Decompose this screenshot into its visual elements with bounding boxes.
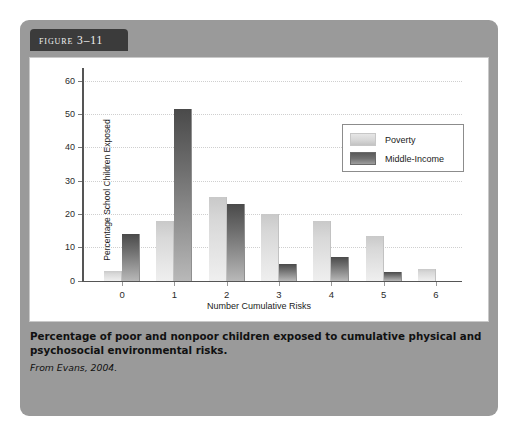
bar-middle-income-5	[384, 272, 402, 280]
legend-label-poverty: Poverty	[385, 135, 416, 145]
legend-item-middle-income: Middle-Income	[350, 150, 456, 167]
plot-frame: 0102030405060 0123456	[82, 74, 462, 282]
figure-caption: Percentage of poor and nonpoor children …	[30, 330, 486, 358]
bar-middle-income-0	[122, 234, 140, 281]
legend-label-middle-income: Middle-Income	[385, 154, 444, 164]
x-tick-mark	[436, 282, 437, 286]
y-tick-label: 10	[65, 242, 75, 252]
figure-card: Figure 3–11 Percentage School Children E…	[20, 20, 498, 416]
bar-poverty-4	[313, 221, 331, 281]
plot-area: 0102030405060 0123456	[82, 74, 462, 282]
figure-badge: Figure 3–11	[30, 29, 128, 51]
chart-panel: Percentage School Children Exposed 01020…	[29, 57, 489, 322]
y-tick-label: 40	[65, 142, 75, 152]
bar-middle-income-1	[174, 109, 192, 281]
bar-poverty-3	[261, 214, 279, 281]
x-tick-mark	[122, 282, 123, 286]
y-tick-label: 50	[65, 109, 75, 119]
x-tick-label: 3	[276, 289, 281, 300]
legend-item-poverty: Poverty	[350, 131, 456, 148]
y-tick-label: 60	[65, 76, 75, 86]
x-tick-mark	[384, 282, 385, 286]
x-tick-label: 1	[172, 289, 177, 300]
x-tick-label: 5	[381, 289, 386, 300]
x-axis-line	[82, 281, 462, 283]
x-tick-label: 6	[433, 289, 438, 300]
x-axis-label: Number Cumulative Risks	[30, 301, 488, 311]
x-tick-mark	[331, 282, 332, 286]
x-tick-label: 0	[119, 289, 124, 300]
y-tick-label: 0	[70, 276, 75, 286]
bar-middle-income-3	[279, 264, 297, 281]
y-tick-label: 30	[65, 176, 75, 186]
bar-poverty-6	[418, 269, 436, 281]
bar-poverty-5	[366, 236, 384, 281]
bar-middle-income-4	[331, 257, 349, 280]
gridline	[82, 181, 462, 182]
x-tick-mark	[227, 282, 228, 286]
bar-poverty-0	[104, 271, 122, 281]
x-tick-label: 2	[224, 289, 229, 300]
x-tick-label: 4	[329, 289, 334, 300]
y-axis-line	[82, 68, 84, 282]
chart-legend: Poverty Middle-Income	[342, 124, 464, 172]
figure-badge-label: Figure 3–11	[39, 34, 103, 46]
bar-poverty-2	[209, 197, 227, 280]
legend-swatch-middle-income	[350, 152, 376, 165]
gridline	[82, 81, 462, 82]
caption-area: Percentage of poor and nonpoor children …	[30, 330, 486, 373]
y-tick-label: 20	[65, 209, 75, 219]
bar-middle-income-2	[227, 204, 245, 281]
bar-poverty-1	[156, 221, 174, 281]
gridline	[82, 114, 462, 115]
legend-swatch-poverty	[350, 133, 376, 146]
x-tick-mark	[279, 282, 280, 286]
figure-source: From Evans, 2004.	[30, 362, 486, 373]
x-tick-mark	[174, 282, 175, 286]
